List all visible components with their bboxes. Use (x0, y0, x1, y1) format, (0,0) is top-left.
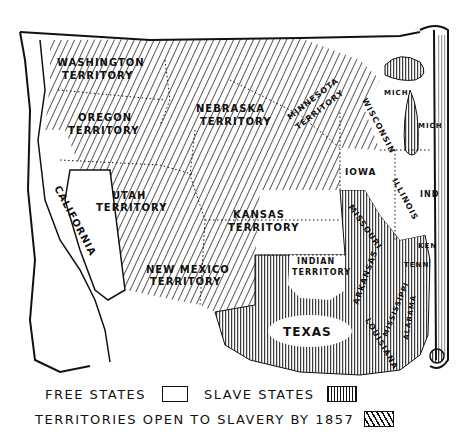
svg-text:WASHINGTON: WASHINGTON (57, 57, 145, 68)
svg-text:INDIAN: INDIAN (297, 257, 335, 266)
legend-row-territories: TERRITORIES OPEN TO SLAVERY BY 1857 (35, 411, 394, 427)
lake-superior (385, 57, 424, 81)
svg-text:TERRITORY: TERRITORY (200, 116, 272, 127)
svg-text:IND: IND (420, 190, 439, 199)
svg-text:TERRITORY: TERRITORY (228, 222, 300, 233)
svg-text:KEN: KEN (418, 242, 437, 250)
svg-text:OREGON: OREGON (78, 112, 132, 123)
legend-slave-label: SLAVE STATES (204, 387, 315, 402)
svg-text:TERRITORY: TERRITORY (292, 268, 351, 277)
legend-territories-label: TERRITORIES OPEN TO SLAVERY BY 1857 (35, 412, 354, 427)
legend-free-swatch (162, 386, 188, 402)
legend-territories-swatch (364, 411, 394, 427)
map-illustration: WASHINGTON TERRITORY OREGON TERRITORY NE… (0, 0, 473, 446)
svg-text:TEXAS: TEXAS (283, 325, 332, 339)
svg-text:TERRITORY: TERRITORY (62, 70, 134, 81)
svg-text:TERRITORY: TERRITORY (150, 276, 222, 287)
legend-free-label: FREE STATES (45, 387, 146, 402)
svg-text:TENN: TENN (404, 261, 429, 269)
legend-row-states: FREE STATES SLAVE STATES (45, 386, 357, 402)
svg-text:TERRITORY: TERRITORY (96, 202, 168, 213)
scroll-knob (430, 349, 444, 363)
legend-slave-swatch (327, 386, 357, 402)
svg-text:TERRITORY: TERRITORY (68, 125, 140, 136)
svg-text:MICH: MICH (418, 122, 443, 130)
svg-text:NEBRASKA: NEBRASKA (196, 103, 265, 114)
scroll-roller (438, 35, 447, 355)
svg-text:IOWA: IOWA (345, 167, 377, 177)
svg-text:KANSAS: KANSAS (233, 209, 285, 220)
svg-text:MICH: MICH (384, 89, 409, 97)
svg-text:UTAH: UTAH (112, 190, 146, 201)
svg-text:NEW MEXICO: NEW MEXICO (146, 264, 230, 275)
